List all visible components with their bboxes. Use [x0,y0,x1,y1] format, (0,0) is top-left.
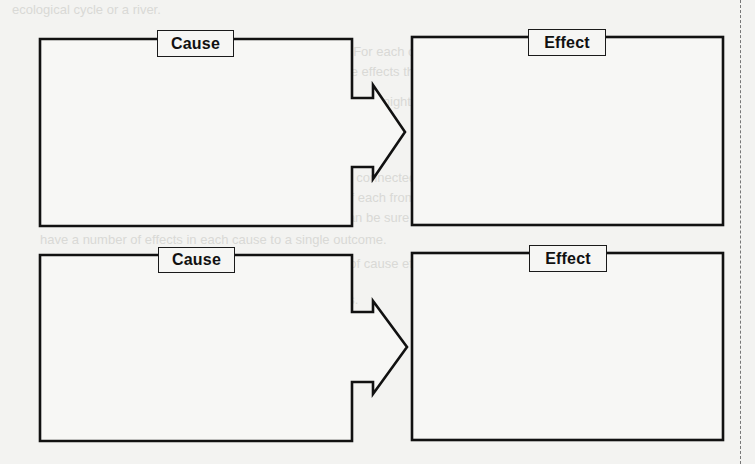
effect-label-1: Effect [528,29,606,56]
cause-writing-area-1[interactable] [46,60,346,220]
cause-label-2: Cause [158,247,235,273]
effect-writing-area-2[interactable] [418,276,717,434]
cause-label-1: Cause [157,30,234,57]
effect-label-2: Effect [529,245,607,272]
effect-label-text-1: Effect [544,34,590,52]
cause-label-text-1: Cause [171,35,220,53]
cause-writing-area-2[interactable] [46,276,346,436]
cut-line [740,0,741,464]
worksheet-canvas: ecological cycle or a river. For one cau… [0,0,755,464]
effect-label-text-2: Effect [545,250,591,268]
effect-writing-area-1[interactable] [418,60,717,220]
cause-label-text-2: Cause [172,251,221,269]
